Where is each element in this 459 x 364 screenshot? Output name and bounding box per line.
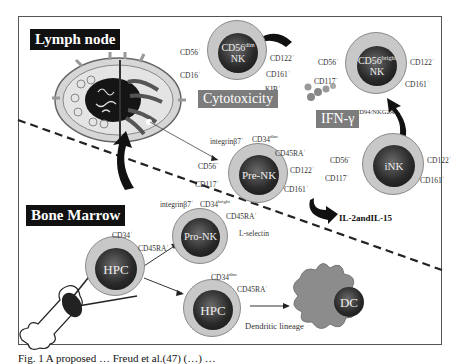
cytotoxicity-label: Cytotoxicity [198,90,278,108]
marker-cd117-plus-prenk: CD117+ [195,178,219,189]
hpc-right-nucleus: HPC [193,290,233,330]
cd56dim-nk-cell: CD56dimNK [207,20,267,80]
figure-caption: Fig. 1 A proposed … Freud et al.(47) (…)… [18,352,216,364]
marker-cd161-plus: CD161+ [266,68,291,79]
marker-cd45ra-plus-pronk: CD45RA+ [226,210,257,221]
cell-name-sup: bright [382,55,396,61]
hpc-left-nucleus: HPC [95,248,137,290]
marker-cd34-dim-prenk: CD34dim [252,133,278,144]
marker-cd56-minus-ink: CD56− [330,154,351,165]
pro-nk-cell: Pro-NK [172,208,228,264]
ifn-gamma-label: IFN-γ [316,110,359,128]
marker-cd122-plus: CD122+ [270,52,295,63]
cell-name-line2: NK [231,53,245,64]
marker-cd122-plus-ink: CD122+ [427,154,452,165]
marker-cd45ra-plus-prenk: CD45RA+ [275,147,306,158]
marker-cd122-plus-prenk: CD122+ [290,164,315,175]
marker-cd161-plus-bright: CD161+ [405,78,430,89]
marker-cd122-plus-bright: CD122+ [410,56,435,67]
cell-name-line2: NK [370,66,384,77]
marker-cd56-minus-prenk: CD56− [198,160,219,171]
pre-nk-nucleus: Pre-NK [239,155,279,195]
marker-l-selectin-pronk: L-selectin [239,230,269,238]
ink-nucleus: iNK [373,145,415,187]
marker-cd94-nkg2a-plus: CD94/NKG2A+ [355,106,397,116]
lymph-node-label: Lymph node [30,29,120,50]
dendritic-lineage-label: Dendritic lineage [245,322,304,330]
cd56bright-nk-cell: CD56brightNK [345,32,407,94]
cell-name-sup: dim [245,42,254,48]
cd56dim-nk-nucleus: CD56dimNK [218,33,258,73]
bone-marrow-label: Bone Marrow [26,205,125,226]
lymph-node-illustration [52,52,186,142]
cd56bright-nk-nucleus: CD56brightNK [357,46,397,86]
marker-cd45ra-plus-hpc2: CD45RA+ [237,283,268,294]
dc-nucleus: DC [334,287,364,317]
marker-cd56-plus-bright: CD56+ [318,56,339,67]
marker-cd117-plus-ink: CD117+ [325,172,349,183]
ink-cell: iNK [362,133,424,195]
cytokine-label: IL-2andIL-15 [339,213,392,223]
marker-cd161-plus-ink: CD161+ [420,174,445,185]
marker-cd56-plus: CD56+ [180,46,201,57]
curved-arrow-prenk-to-ink [309,198,338,224]
marker-cd45ra-plus-hpc: CD45RA+ [138,242,169,253]
marker-cd16-plus: CD16+ [180,69,201,80]
marker-cd34-plus-hpc: CD34+ [112,229,133,240]
marker-integrinb7-plus-prenk: integrinβ7+ [210,135,244,146]
hpc-right-cell: HPC [183,279,241,337]
hpc-left-cell: HPC [85,236,145,296]
marker-cd117-minus-bright: CD117− [314,75,338,86]
pro-nk-nucleus: Pro-NK [181,218,220,257]
marker-cd34-bright-pronk: CD34bright [200,198,230,209]
marker-integrinb7-plus-pronk: integrinβ7+ [160,198,194,209]
marker-cd161-plus-prenk: CD161+ [284,183,309,194]
marker-cd34-dim-hpc2: CD34dim [211,271,237,282]
